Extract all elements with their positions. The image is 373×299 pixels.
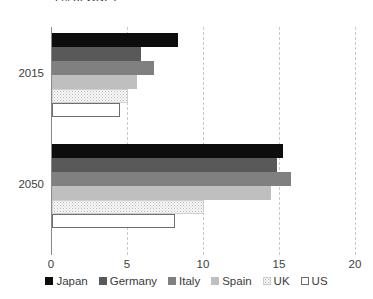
gridline-20 xyxy=(355,27,356,255)
bar-2015-germany xyxy=(52,47,141,61)
category-label-2015: 2015 xyxy=(0,67,44,79)
xtick-label-10: 10 xyxy=(197,258,210,270)
legend-swatch-italy-icon xyxy=(168,277,176,285)
legend-swatch-japan-icon xyxy=(45,277,53,285)
bar-2015-uk xyxy=(52,89,128,103)
legend-item-uk[interactable]: UK xyxy=(263,275,290,287)
legend-item-spain[interactable]: Spain xyxy=(211,275,251,287)
bar-2050-japan xyxy=(52,144,283,158)
gridline-10 xyxy=(203,27,204,255)
bar-2015-us xyxy=(52,103,120,117)
chart-title: (% of GDP) xyxy=(55,0,116,1)
legend-label-spain: Spain xyxy=(222,275,251,287)
bar-2015-italy xyxy=(52,61,154,75)
legend-label-japan: Japan xyxy=(56,275,87,287)
bar-2050-germany xyxy=(52,158,277,172)
legend-item-us[interactable]: US xyxy=(301,275,328,287)
bar-2050-us xyxy=(52,214,175,228)
bar-2050-spain xyxy=(52,186,271,200)
chart-legend: Japan Germany Italy Spain UK US xyxy=(0,275,373,287)
legend-swatch-spain-icon xyxy=(211,277,219,285)
legend-swatch-uk-icon xyxy=(263,277,271,285)
legend-label-italy: Italy xyxy=(179,275,200,287)
xtick-label-0: 0 xyxy=(48,258,54,270)
legend-label-us: US xyxy=(312,275,328,287)
xtick-label-20: 20 xyxy=(349,258,362,270)
bar-chart: (% of GDP) 2015 2050 0 5 10 15 20 Japan … xyxy=(0,0,373,299)
category-label-2050: 2050 xyxy=(0,178,44,190)
legend-item-italy[interactable]: Italy xyxy=(168,275,200,287)
bar-2050-italy xyxy=(52,172,291,186)
legend-swatch-us-icon xyxy=(301,277,309,285)
legend-label-uk: UK xyxy=(274,275,290,287)
bar-2015-japan xyxy=(52,33,178,47)
xtick-label-5: 5 xyxy=(124,258,130,270)
legend-item-germany[interactable]: Germany xyxy=(99,275,157,287)
legend-label-germany: Germany xyxy=(110,275,157,287)
xtick-label-15: 15 xyxy=(273,258,286,270)
gridline-15 xyxy=(279,27,280,255)
legend-swatch-germany-icon xyxy=(99,277,107,285)
bar-2050-uk xyxy=(52,200,204,214)
legend-item-japan[interactable]: Japan xyxy=(45,275,87,287)
bar-2015-spain xyxy=(52,75,137,89)
